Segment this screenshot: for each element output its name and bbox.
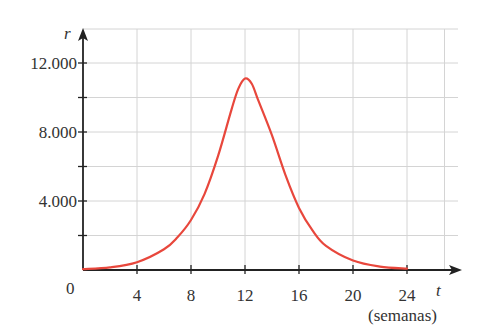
x-tick-label: 12 — [237, 286, 254, 305]
x-tick-label: 4 — [133, 286, 142, 305]
x-axis-label: t — [436, 281, 442, 300]
y-tick-label: 4.000 — [39, 192, 77, 211]
x-tick-label: 20 — [345, 286, 362, 305]
y-tick-label: 8.000 — [39, 123, 77, 142]
grid-lines — [83, 29, 458, 270]
chart: 48121620244.0008.00012.000 r t (semanas)… — [0, 0, 479, 333]
axes — [78, 28, 462, 275]
y-axis-label: r — [64, 24, 71, 43]
x-tick-label: 8 — [187, 286, 196, 305]
x-axis-unit-label: (semanas) — [368, 306, 437, 325]
axis-ticks — [78, 63, 407, 274]
tick-labels: 48121620244.0008.00012.000 — [30, 54, 416, 305]
origin-label: 0 — [66, 279, 75, 298]
y-tick-label: 12.000 — [30, 54, 77, 73]
x-tick-label: 16 — [291, 286, 308, 305]
x-tick-label: 24 — [399, 286, 417, 305]
